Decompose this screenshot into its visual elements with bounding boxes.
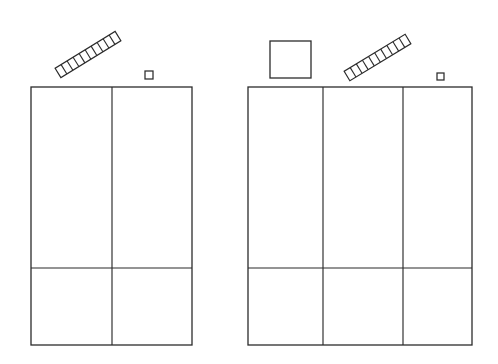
- right-small-square[interactable]: [437, 73, 444, 80]
- left-panel[interactable]: [31, 87, 192, 345]
- medium-square[interactable]: [270, 41, 311, 78]
- left-small-square[interactable]: [145, 71, 153, 79]
- scene-svg: [0, 0, 498, 364]
- right-panel-outline: [248, 87, 472, 345]
- right-panel[interactable]: [248, 87, 472, 345]
- drawing-canvas: [0, 0, 498, 364]
